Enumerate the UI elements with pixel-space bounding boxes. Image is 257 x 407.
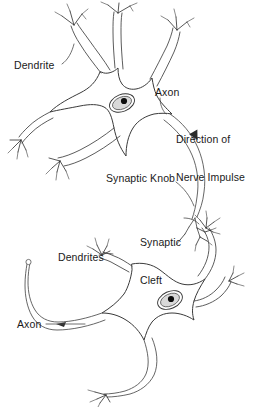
lower-axon-descend-edge-a bbox=[104, 340, 148, 394]
upper-dendrite-farleft-edge-b bbox=[22, 118, 53, 143]
upper-dendrite-right-edge-a bbox=[150, 28, 173, 79]
upper-dendrite-lowleft-edge-b bbox=[64, 136, 120, 166]
label-axon-lower: Axon bbox=[17, 318, 41, 331]
upper-dendrite-right-tip-2 bbox=[161, 9, 194, 27]
upper-dendrite-farleft-tip-fine bbox=[8, 148, 28, 159]
lower-axon-impulse-arrow bbox=[56, 322, 66, 327]
lower-neuron bbox=[25, 211, 244, 407]
lower-axon-terminal-circle bbox=[26, 259, 31, 264]
leader-dendrite-upper bbox=[62, 44, 74, 64]
lower-dendrite-rightlobe-tip bbox=[229, 273, 238, 284]
upper-dendrite-lowleft-tip bbox=[49, 158, 66, 172]
label-dendrite-upper: Dendrite bbox=[14, 59, 55, 72]
label-direction-line2: Nerve Impulse bbox=[176, 171, 245, 184]
label-synaptic-cleft: Synaptic Cleft bbox=[140, 211, 181, 311]
label-axon-upper: Axon bbox=[155, 86, 179, 99]
upper-nucleolus bbox=[121, 98, 127, 104]
lower-axon-edge-a bbox=[28, 263, 102, 322]
label-direction-of-nerve-impulse: Direction of Nerve Impulse bbox=[176, 108, 245, 208]
lower-dendrite-right-tip-fine bbox=[195, 211, 220, 234]
label-dendrites-lower: Dendrites bbox=[58, 251, 104, 264]
upper-dendrite-mid-edge-a bbox=[113, 12, 115, 68]
neuron-diagram: Dendrite Axon Direction of Nerve Impulse… bbox=[0, 0, 257, 407]
upper-dendrite-left-tip-1 bbox=[62, 11, 82, 25]
lower-dendrite-up-edge-b bbox=[100, 258, 129, 272]
upper-axon-terminal-branch bbox=[185, 218, 200, 237]
synaptic-knob-endings-fine bbox=[176, 228, 216, 251]
upper-dendrite-mid-tip-1 bbox=[108, 3, 130, 13]
synaptic-knob-endings bbox=[180, 228, 211, 245]
upper-dendrite-right-tip-1 bbox=[168, 17, 187, 30]
upper-dendrite-farleft-edge-a bbox=[19, 112, 50, 137]
label-direction-line1: Direction of bbox=[176, 133, 245, 146]
lower-dendrite-up-edge-a bbox=[103, 252, 132, 266]
upper-dendrite-mid-edge-b bbox=[121, 13, 123, 69]
upper-dendrite-left-edge-a bbox=[71, 26, 101, 73]
upper-dendrite-lowleft-edge-a bbox=[58, 128, 114, 158]
label-synaptic-cleft-line1: Synaptic bbox=[140, 236, 181, 249]
label-synaptic-cleft-line2: Cleft bbox=[140, 274, 181, 287]
label-synaptic-knob: Synaptic Knob bbox=[106, 172, 175, 185]
upper-dendrite-farleft-tip bbox=[10, 140, 26, 152]
